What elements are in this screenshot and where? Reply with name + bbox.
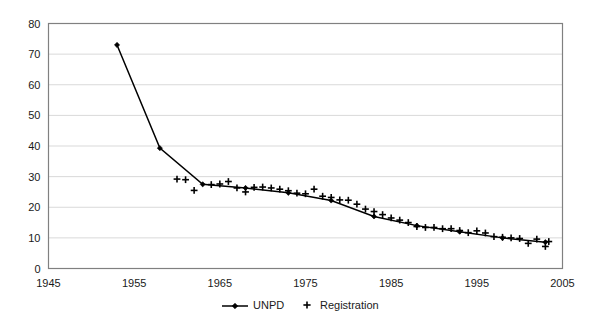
line-chart: 01020304050607080 1945195519651975198519…	[0, 0, 598, 331]
y-tick-label: 40	[28, 140, 40, 152]
x-tick-label: 1945	[36, 277, 60, 289]
y-tick-label: 20	[28, 201, 40, 213]
x-tick-label: 1975	[293, 277, 317, 289]
y-tick-label: 0	[34, 263, 40, 275]
y-tick-label: 10	[28, 232, 40, 244]
legend-label-registration: Registration	[320, 299, 379, 311]
y-tick-label: 80	[28, 18, 40, 30]
y-axis-tick-labels: 01020304050607080	[28, 18, 40, 275]
y-tick-label: 50	[28, 109, 40, 121]
y-tick-label: 60	[28, 79, 40, 91]
chart-container: 01020304050607080 1945195519651975198519…	[0, 0, 598, 331]
x-tick-label: 1995	[465, 277, 489, 289]
x-tick-label: 2005	[550, 277, 574, 289]
y-tick-label: 30	[28, 171, 40, 183]
legend-label-unpd: UNPD	[253, 299, 284, 311]
x-tick-label: 1985	[379, 277, 403, 289]
x-tick-label: 1955	[122, 277, 146, 289]
y-tick-label: 70	[28, 48, 40, 60]
chart-legend: UNPDRegistration	[216, 296, 388, 318]
x-tick-label: 1965	[208, 277, 232, 289]
